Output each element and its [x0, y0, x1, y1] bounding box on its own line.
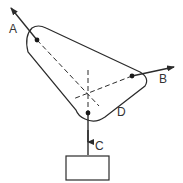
force-diagram: A B C D — [0, 0, 183, 183]
label-b: B — [159, 72, 167, 86]
pin-c — [86, 111, 91, 116]
pin-b — [130, 74, 135, 79]
plate-outline — [27, 26, 147, 121]
label-c: C — [95, 139, 104, 153]
label-a: A — [9, 22, 17, 36]
line-of-action-a — [37, 40, 99, 106]
weight-box — [66, 156, 109, 180]
pin-a — [35, 38, 40, 43]
label-d: D — [117, 105, 126, 119]
